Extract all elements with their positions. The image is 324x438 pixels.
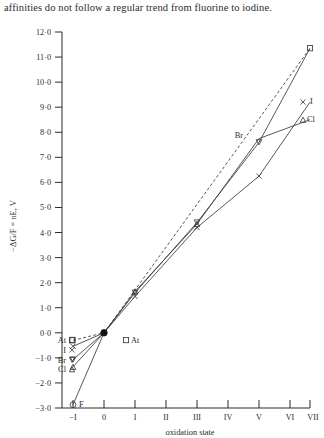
y-tick-label: −1·0 xyxy=(35,354,51,363)
legend-label-br: Br xyxy=(58,356,67,365)
x-tick-label: III xyxy=(193,413,201,422)
legend-label-i: I xyxy=(63,346,66,355)
series-at xyxy=(70,46,313,343)
annotation-f-point: F xyxy=(79,400,84,409)
marker-i-five xyxy=(256,174,261,179)
y-tick-label: 2·0 xyxy=(40,279,51,288)
x-tick-label: −I xyxy=(69,413,77,422)
legend-marker-cross-i xyxy=(69,347,74,352)
x-tick-label: I xyxy=(134,413,137,422)
x-axis-tick-labels: −I 0 I II III IV V VI VII xyxy=(69,413,319,422)
marker-at-zero xyxy=(123,338,128,343)
y-tick-label: 1·0 xyxy=(40,304,51,313)
y-tick-label: 0·0 xyxy=(40,329,51,338)
legend-label-at: At xyxy=(58,336,67,345)
marker-i-seven xyxy=(300,100,305,105)
y-tick-label: 4·0 xyxy=(40,229,51,238)
series-br xyxy=(70,48,310,362)
y-tick-label: 8·0 xyxy=(40,128,51,137)
legend: At I Br Cl xyxy=(58,336,75,374)
annotation-cl-endpoint: Cl xyxy=(307,115,316,124)
y-tick-label: 11·0 xyxy=(36,53,51,62)
y-tick-label: −3·0 xyxy=(35,404,51,413)
point-annotations: At Br I Cl F xyxy=(79,97,316,409)
x-tick-label: IV xyxy=(224,413,233,422)
y-tick-label: −2·0 xyxy=(35,379,51,388)
chart-figure: 12·0 11·0 10·0 9·0 8·0 7·0 6·0 5·0 4·0 3… xyxy=(0,16,324,438)
figure-caption-text: affinities do not follow a regular trend… xyxy=(4,1,320,14)
origin-point-marker xyxy=(101,330,107,336)
x-tick-label: 0 xyxy=(102,413,106,422)
y-axis-tick-labels: 12·0 11·0 10·0 9·0 8·0 7·0 6·0 5·0 4·0 3… xyxy=(35,28,51,413)
x-axis-ticks xyxy=(73,400,310,408)
x-tick-label: VII xyxy=(307,413,319,422)
marker-at-seven xyxy=(307,46,312,51)
y-tick-label: 12·0 xyxy=(36,28,51,37)
x-tick-label: V xyxy=(256,413,262,422)
x-tick-label: VI xyxy=(286,413,295,422)
x-axis-title: oxidation state xyxy=(165,428,214,437)
y-axis-title: −ΔG/F = nE, V xyxy=(9,200,18,251)
annotation-br-endpoint: Br xyxy=(235,131,244,140)
marker-i-minus-one xyxy=(70,344,75,349)
y-axis-ticks xyxy=(55,32,62,408)
series-i xyxy=(70,100,310,349)
y-tick-label: 9·0 xyxy=(40,103,51,112)
chart-svg: 12·0 11·0 10·0 9·0 8·0 7·0 6·0 5·0 4·0 3… xyxy=(0,16,324,438)
annotation-i-endpoint: I xyxy=(310,97,313,106)
legend-label-cl: Cl xyxy=(58,365,67,374)
marker-cl-seven xyxy=(300,117,306,122)
y-tick-label: 7·0 xyxy=(40,153,51,162)
annotation-at-point: At xyxy=(131,336,140,345)
x-tick-label: II xyxy=(163,413,169,422)
y-tick-label: 10·0 xyxy=(36,78,51,87)
y-tick-label: 3·0 xyxy=(40,254,51,263)
y-tick-label: 5·0 xyxy=(40,203,51,212)
y-tick-label: 6·0 xyxy=(40,178,51,187)
